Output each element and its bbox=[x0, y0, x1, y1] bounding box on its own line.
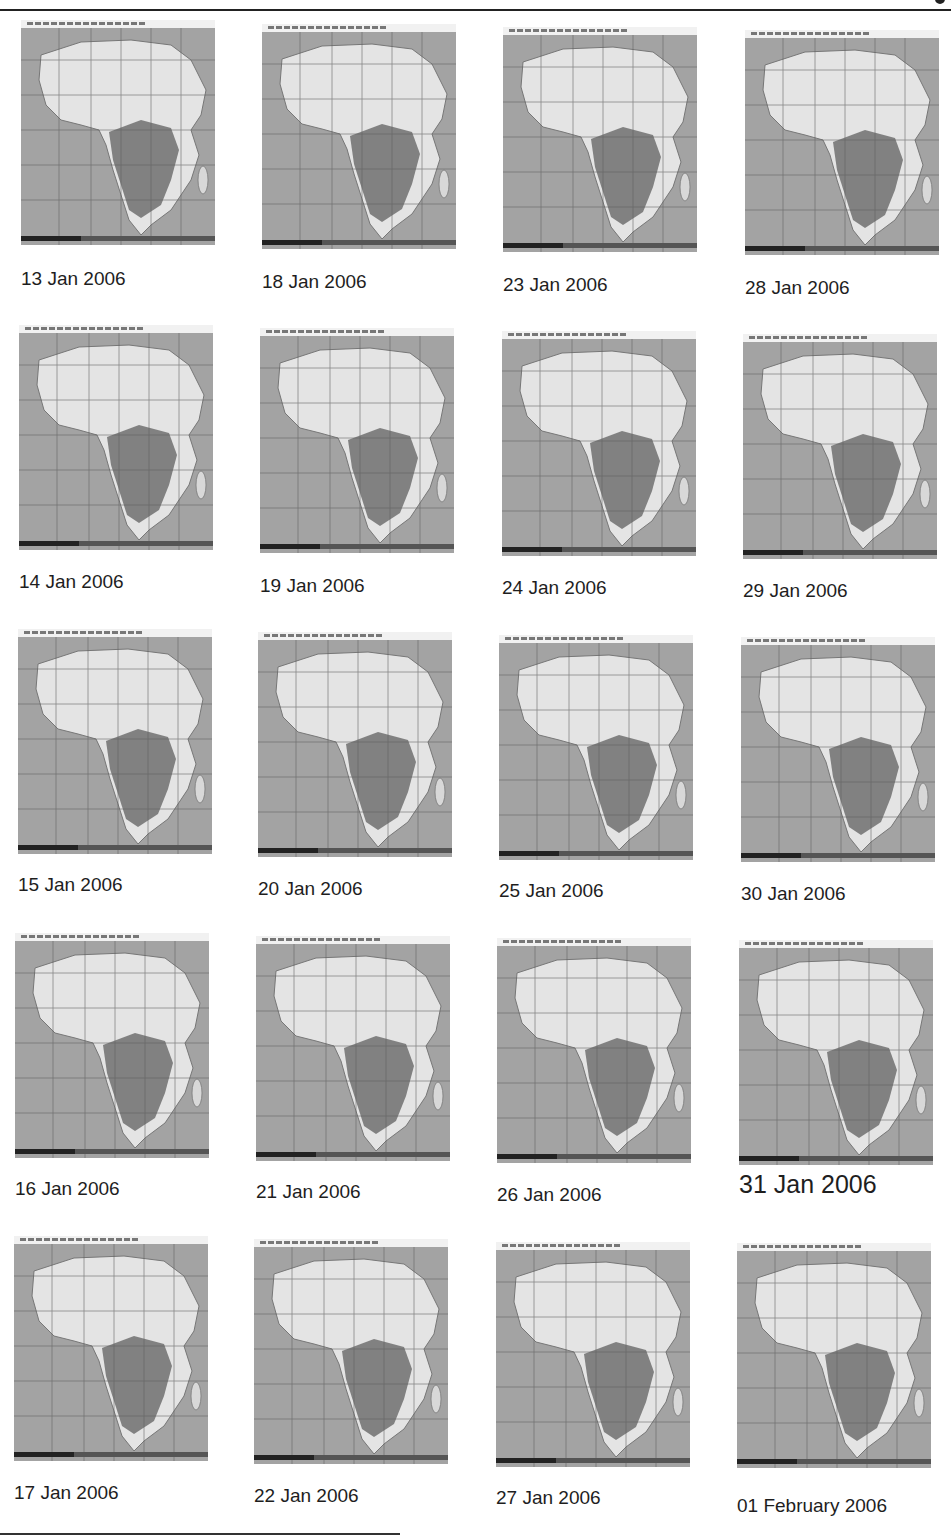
africa-map-icon bbox=[745, 30, 939, 255]
date-caption: 14 Jan 2006 bbox=[19, 571, 124, 593]
africa-map-image bbox=[258, 632, 452, 857]
africa-map-icon bbox=[15, 933, 209, 1158]
africa-map-image bbox=[739, 940, 933, 1165]
map-header-strip bbox=[745, 30, 939, 38]
date-caption: 01 February 2006 bbox=[737, 1495, 887, 1517]
africa-map-icon bbox=[737, 1243, 931, 1468]
map-header-strip bbox=[502, 331, 696, 339]
africa-map-icon bbox=[496, 1242, 690, 1467]
map-header-text bbox=[509, 29, 629, 32]
map-header-strip bbox=[21, 20, 215, 28]
africa-map-image bbox=[254, 1239, 448, 1464]
map-header-strip bbox=[743, 334, 937, 342]
page-number-fragment bbox=[935, 0, 945, 4]
map-header-text bbox=[27, 22, 147, 25]
africa-map-image bbox=[15, 933, 209, 1158]
africa-map-icon bbox=[499, 635, 693, 860]
map-header-strip bbox=[737, 1243, 931, 1251]
map-header-strip bbox=[503, 27, 697, 35]
africa-map-image bbox=[745, 30, 939, 255]
africa-map-image bbox=[262, 24, 456, 249]
top-rule bbox=[0, 9, 951, 11]
date-caption: 29 Jan 2006 bbox=[743, 580, 848, 602]
map-header-text bbox=[264, 634, 384, 637]
africa-map-image bbox=[19, 325, 213, 550]
map-header-text bbox=[24, 631, 144, 634]
map-header-text bbox=[505, 637, 625, 640]
map-header-strip bbox=[258, 632, 452, 640]
map-header-text bbox=[745, 942, 865, 945]
date-caption: 20 Jan 2006 bbox=[258, 878, 363, 900]
map-header-text bbox=[743, 1245, 863, 1248]
date-caption: 27 Jan 2006 bbox=[496, 1487, 601, 1509]
africa-map-icon bbox=[19, 325, 213, 550]
africa-map-icon bbox=[739, 940, 933, 1165]
map-header-strip bbox=[14, 1236, 208, 1244]
map-header-strip bbox=[18, 629, 212, 637]
map-header-text bbox=[749, 336, 869, 339]
africa-map-icon bbox=[497, 938, 691, 1163]
map-header-text bbox=[751, 32, 871, 35]
map-header-text bbox=[266, 330, 386, 333]
africa-map-image bbox=[502, 331, 696, 556]
date-caption: 31 Jan 2006 bbox=[739, 1170, 877, 1199]
map-header-strip bbox=[499, 635, 693, 643]
map-header-strip bbox=[262, 24, 456, 32]
date-caption: 22 Jan 2006 bbox=[254, 1485, 359, 1507]
date-caption: 16 Jan 2006 bbox=[15, 1178, 120, 1200]
africa-map-icon bbox=[741, 637, 935, 862]
map-header-strip bbox=[741, 637, 935, 645]
map-header-text bbox=[21, 935, 141, 938]
date-caption: 23 Jan 2006 bbox=[503, 274, 608, 296]
africa-map-image bbox=[18, 629, 212, 854]
map-header-text bbox=[20, 1238, 140, 1241]
map-header-strip bbox=[256, 936, 450, 944]
map-header-text bbox=[502, 1244, 622, 1247]
date-caption: 26 Jan 2006 bbox=[497, 1184, 602, 1206]
map-header-text bbox=[268, 26, 388, 29]
date-caption: 30 Jan 2006 bbox=[741, 883, 846, 905]
map-header-strip bbox=[15, 933, 209, 941]
map-header-strip bbox=[739, 940, 933, 948]
africa-map-image bbox=[497, 938, 691, 1163]
date-caption: 28 Jan 2006 bbox=[745, 277, 850, 299]
map-header-text bbox=[260, 1241, 380, 1244]
map-header-text bbox=[262, 938, 382, 941]
date-caption: 25 Jan 2006 bbox=[499, 880, 604, 902]
africa-map-icon bbox=[14, 1236, 208, 1461]
africa-map-image bbox=[503, 27, 697, 252]
date-caption: 13 Jan 2006 bbox=[21, 268, 126, 290]
africa-map-icon bbox=[262, 24, 456, 249]
map-header-strip bbox=[260, 328, 454, 336]
date-caption: 19 Jan 2006 bbox=[260, 575, 365, 597]
map-header-text bbox=[747, 639, 867, 642]
africa-map-icon bbox=[503, 27, 697, 252]
africa-map-icon bbox=[260, 328, 454, 553]
africa-map-image bbox=[737, 1243, 931, 1468]
map-header-text bbox=[503, 940, 623, 943]
africa-map-icon bbox=[18, 629, 212, 854]
date-caption: 21 Jan 2006 bbox=[256, 1181, 361, 1203]
date-caption: 15 Jan 2006 bbox=[18, 874, 123, 896]
africa-map-image bbox=[743, 334, 937, 559]
africa-map-image bbox=[256, 936, 450, 1161]
africa-map-icon bbox=[743, 334, 937, 559]
africa-map-image bbox=[741, 637, 935, 862]
africa-map-image bbox=[496, 1242, 690, 1467]
map-header-strip bbox=[496, 1242, 690, 1250]
africa-map-icon bbox=[258, 632, 452, 857]
africa-map-icon bbox=[254, 1239, 448, 1464]
africa-map-image bbox=[14, 1236, 208, 1461]
africa-map-icon bbox=[502, 331, 696, 556]
map-header-text bbox=[508, 333, 628, 336]
date-caption: 24 Jan 2006 bbox=[502, 577, 607, 599]
africa-map-icon bbox=[21, 20, 215, 245]
date-caption: 18 Jan 2006 bbox=[262, 271, 367, 293]
bottom-rule bbox=[0, 1533, 400, 1535]
map-header-strip bbox=[19, 325, 213, 333]
date-caption: 17 Jan 2006 bbox=[14, 1482, 119, 1504]
map-header-text bbox=[25, 327, 145, 330]
map-header-strip bbox=[497, 938, 691, 946]
africa-map-image bbox=[499, 635, 693, 860]
map-header-strip bbox=[254, 1239, 448, 1247]
